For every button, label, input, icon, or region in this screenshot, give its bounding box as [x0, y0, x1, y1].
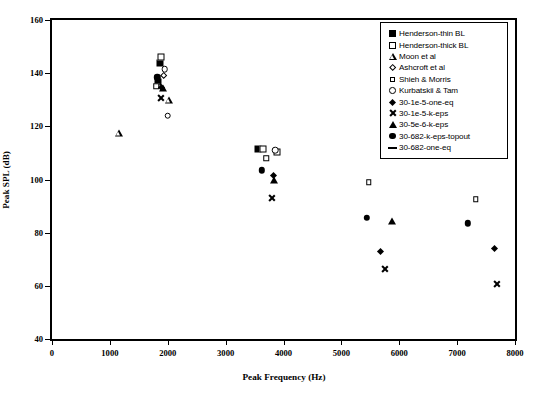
x-tick	[399, 339, 400, 345]
x-tick-label: 7000	[449, 348, 466, 358]
filled-triangle-icon	[386, 119, 399, 130]
legend-item[interactable]: Ashcroft et al	[386, 62, 502, 73]
data-point	[164, 112, 171, 119]
chart-root: Peak SPL (dB) Peak Frequency (Hz) 406080…	[0, 0, 538, 397]
data-point	[377, 248, 384, 255]
legend-item[interactable]: 30-682-k-eps-topout	[386, 131, 502, 142]
legend-item-label: Ashcroft et al	[399, 63, 445, 72]
y-tick-label: 160	[30, 15, 43, 25]
legend-item[interactable]: 30-1e-5-one-eq	[386, 96, 502, 107]
data-point	[270, 176, 278, 183]
x-tick	[457, 339, 458, 345]
open-triangle-icon	[386, 51, 399, 62]
open-circle-icon	[386, 85, 399, 96]
x-tick-label: 4000	[275, 348, 292, 358]
data-point	[258, 167, 264, 173]
open-square-icon	[386, 39, 399, 50]
filled-square-icon	[386, 28, 399, 39]
filled-circle-icon	[386, 131, 399, 142]
y-tick	[45, 233, 52, 234]
legend-item-label: 30-682-one-eq	[399, 143, 451, 152]
x-tick	[515, 339, 516, 345]
x-tick-label: 2000	[159, 348, 176, 358]
legend-item[interactable]: Shieh & Morris	[386, 74, 502, 85]
x-tick-label: 1000	[101, 348, 118, 358]
data-point	[263, 155, 269, 161]
y-tick-label: 80	[34, 228, 43, 238]
y-tick	[45, 73, 52, 74]
legend-item-label: Shieh & Morris	[399, 75, 451, 84]
y-tick-label: 40	[34, 334, 43, 344]
legend-item[interactable]: Moon et al	[386, 51, 502, 62]
x-tick	[284, 339, 285, 345]
data-point	[464, 220, 470, 226]
legend-item-label: Moon et al	[399, 52, 436, 61]
cross-icon	[386, 108, 399, 119]
y-tick	[45, 180, 52, 181]
x-tick	[341, 339, 342, 345]
legend-item-label: Henderson-thick BL	[399, 41, 468, 50]
legend-item-label: Kurbatskii & Tam	[399, 86, 458, 95]
y-tick	[45, 286, 52, 287]
y-tick	[45, 339, 52, 340]
x-tick-label: 8000	[506, 348, 523, 358]
data-point	[364, 215, 370, 221]
data-point	[473, 197, 479, 203]
x-tick-label: 5000	[333, 348, 350, 358]
open-diamond-icon	[386, 62, 399, 73]
x-axis-label: Peak Frequency (Hz)	[242, 372, 325, 382]
legend-item-label: 30-5e-6-k-eps	[399, 120, 448, 129]
data-point	[492, 280, 500, 288]
legend-item[interactable]: Kurbatskii & Tam	[386, 85, 502, 96]
legend-item-label: Henderson-thin BL	[399, 29, 465, 38]
small-open-square-icon	[386, 74, 399, 85]
legend-item[interactable]: 30-5e-6-k-eps	[386, 119, 502, 130]
data-point	[158, 54, 165, 61]
data-point	[268, 194, 276, 202]
x-tick-label: 6000	[391, 348, 408, 358]
data-point	[272, 147, 279, 154]
x-tick	[52, 339, 53, 345]
dash-icon	[386, 142, 399, 153]
legend-item[interactable]: 30-1e-5-k-eps	[386, 108, 502, 119]
y-tick	[45, 126, 52, 127]
x-tick	[110, 339, 111, 345]
data-point	[381, 265, 389, 273]
y-tick-label: 100	[30, 175, 43, 185]
legend-item-label: 30-1e-5-one-eq	[399, 98, 453, 107]
legend-item[interactable]: Henderson-thin BL	[386, 28, 502, 39]
data-point	[165, 97, 173, 104]
y-axis-label: Peak SPL (dB)	[1, 151, 11, 209]
x-tick	[168, 339, 169, 345]
legend-item[interactable]: Henderson-thick BL	[386, 39, 502, 50]
data-point	[388, 217, 396, 224]
data-point	[159, 84, 167, 91]
legend-item[interactable]: 30-682-one-eq	[386, 142, 502, 153]
data-point	[162, 66, 169, 73]
legend-item-label: 30-1e-5-k-eps	[399, 109, 448, 118]
data-point	[491, 245, 498, 252]
x-tick	[226, 339, 227, 345]
legend-item-label: 30-682-k-eps-topout	[399, 132, 470, 141]
data-point	[157, 94, 165, 102]
x-tick-label: 0	[50, 348, 54, 358]
y-tick-label: 60	[34, 281, 43, 291]
x-tick-label: 3000	[217, 348, 234, 358]
filled-diamond-icon	[386, 96, 399, 107]
data-point	[366, 179, 372, 185]
y-tick	[45, 20, 52, 21]
y-tick-label: 120	[30, 121, 43, 131]
data-point	[259, 145, 266, 152]
legend: Henderson-thin BLHenderson-thick BLMoon …	[380, 22, 508, 159]
data-point	[115, 129, 123, 136]
y-tick-label: 140	[30, 68, 43, 78]
